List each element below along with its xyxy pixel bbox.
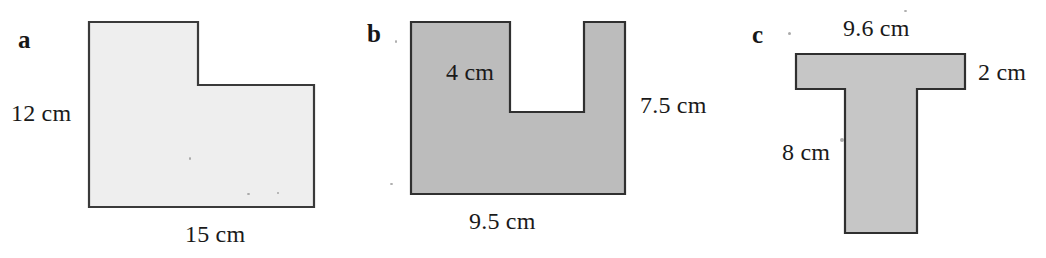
figure-part-b: b 4 cm 7.5 cm 9.5 cm <box>350 0 710 258</box>
label-c-height: 8 cm <box>782 140 830 164</box>
figure-part-c: c 9.6 cm 2 cm 8 cm <box>710 0 1046 258</box>
scan-speck <box>395 40 397 43</box>
scan-speck <box>840 138 844 142</box>
label-a-width: 15 cm <box>185 222 245 246</box>
label-b-notch-depth: 4 cm <box>446 60 494 84</box>
label-b-width: 9.5 cm <box>469 209 536 233</box>
scan-speck <box>277 192 279 194</box>
scan-speck <box>247 193 250 195</box>
scan-speck <box>904 10 907 12</box>
geometry-figure: a 12 cm 15 cm b 4 cm 7.5 cm 9.5 cm c 9.6… <box>0 0 1046 258</box>
label-c-top-width: 9.6 cm <box>843 16 910 40</box>
scan-speck <box>788 32 791 35</box>
scan-speck <box>390 183 393 185</box>
figure-part-a: a 12 cm 15 cm <box>0 0 350 258</box>
scan-speck <box>189 157 191 160</box>
shape-a-l <box>0 0 350 258</box>
label-c-top-thickness: 2 cm <box>978 60 1026 84</box>
label-b-height: 7.5 cm <box>640 93 707 117</box>
label-a-height: 12 cm <box>11 101 71 125</box>
shape-b-outline <box>411 22 625 194</box>
shape-a-outline <box>89 22 314 207</box>
